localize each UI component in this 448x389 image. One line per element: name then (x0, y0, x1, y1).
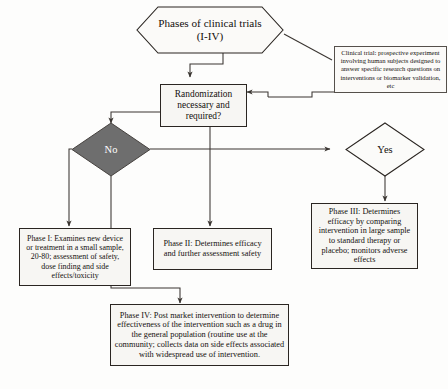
decision-no-label: No (105, 144, 118, 155)
decision-yes[interactable]: Yes (345, 122, 425, 177)
edge-note-to-decision (247, 92, 268, 97)
node-randomization-question[interactable]: Randomization necessary and required? (160, 84, 247, 127)
decision-yes-label: Yes (377, 144, 392, 155)
flowchart-canvas: Phases of clinical trials (I-IV) Clinica… (0, 0, 448, 389)
edge-note-leader (268, 92, 334, 97)
node-phase-1[interactable]: Phase I: Examines new device or treatmen… (19, 228, 131, 286)
edge-title-to-note (284, 34, 332, 60)
decision-no[interactable]: No (71, 122, 151, 177)
node-title-label: Phases of clinical trials (I-IV) (158, 17, 261, 44)
edge-title-to-decision (190, 53, 223, 77)
node-title-line2: (I-IV) (158, 30, 261, 43)
node-phase-2[interactable]: Phase II: Determines efficacy and furthe… (153, 228, 272, 270)
node-title-line1: Phases of clinical trials (158, 17, 261, 30)
node-phase-3[interactable]: Phase III: Determines efficacy by compar… (311, 203, 418, 269)
note-clinical-trial-definition: Clinical trial: prospective experiment i… (334, 46, 447, 93)
node-phases-of-clinical-trials[interactable]: Phases of clinical trials (I-IV) (136, 6, 284, 54)
node-phase-4[interactable]: Phase IV: Post market intervention to de… (110, 304, 289, 366)
